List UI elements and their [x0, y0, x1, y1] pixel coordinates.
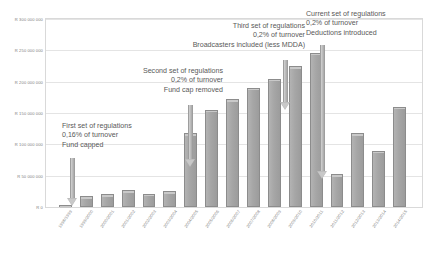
bar-column [372, 19, 385, 207]
x-axis-tick-label: 2003/2004 [162, 209, 178, 229]
y-axis-tick-label: R 0 [36, 205, 43, 210]
x-axis-tick-label: 2006/2007 [225, 209, 241, 229]
annotation-line-1: Current set of regulations [306, 10, 386, 19]
y-axis: R 300 000 000R 250 000 000R 200 000 000R… [0, 18, 45, 208]
bar [247, 88, 260, 207]
bar [351, 133, 364, 207]
bar-column [80, 19, 93, 207]
bar-chart: R 300 000 000R 250 000 000R 200 000 000R… [0, 0, 439, 267]
annotation-second-set: Second set of regulations 0,2% of turnov… [58, 67, 223, 95]
x-axis-tick-label: 2002/2003 [141, 209, 157, 229]
annotation-arrow-second-set [184, 105, 196, 167]
x-axis-tick-label: 2004/2005 [183, 209, 199, 229]
annotation-line-2: 0,16% of turnover [62, 131, 132, 140]
annotation-line-3: Deductions introduced [306, 29, 386, 38]
y-axis-tick-label: R 250 000 000 [15, 48, 43, 53]
x-axis-tick-label: 2007/2008 [246, 209, 262, 229]
y-axis-tick-label: R 300 000 000 [15, 17, 43, 22]
x-axis-tick-label: 2005/2006 [204, 209, 220, 229]
x-axis-tick-label: 2000/2001 [99, 209, 115, 229]
x-axis: 1998/19991999/20002000/20012001/20022002… [46, 209, 422, 267]
x-axis-tick-label: 1999/2000 [78, 209, 94, 229]
x-axis-tick-label: 2001/2002 [120, 209, 136, 229]
bar [122, 190, 135, 207]
x-axis-tick-label: 2009/2010 [287, 209, 303, 229]
y-axis-tick-label: R 200 000 000 [15, 79, 43, 84]
y-axis-tick-label: R 100 000 000 [15, 142, 43, 147]
x-axis-tick-label: 2013/2014 [371, 209, 387, 229]
bar-column [351, 19, 364, 207]
bar [101, 194, 114, 207]
y-axis-tick-label: R 150 000 000 [15, 111, 43, 116]
x-axis-tick-label: 2012/2013 [350, 209, 366, 229]
annotation-arrow-current-set [316, 45, 328, 179]
annotation-line-3: Fund capped [62, 141, 132, 150]
bar [205, 110, 218, 207]
bar [163, 191, 176, 207]
annotation-line-1: Third set of regulations [110, 22, 305, 31]
annotation-line-3: Fund cap removed [58, 86, 223, 95]
annotation-line-1: Second set of regulations [58, 67, 223, 76]
annotation-line-2: 0,2% of turnover [306, 19, 386, 28]
annotation-third-set: Third set of regulations 0,2% of turnove… [110, 22, 305, 50]
bar [372, 151, 385, 207]
bar-column [393, 19, 406, 207]
bar [331, 174, 344, 207]
annotation-current-set: Current set of regulations 0,2% of turno… [306, 10, 386, 38]
bar [80, 196, 93, 207]
x-axis-tick-label: 1998/1999 [58, 209, 74, 229]
bar-column [331, 19, 344, 207]
annotation-line-2: 0,2% of turnover [58, 76, 223, 85]
annotation-line-1: First set of regulations [62, 122, 132, 131]
y-axis-tick-label: R 50 000 000 [17, 173, 43, 178]
x-axis-tick-label: 2011/2012 [329, 209, 345, 229]
annotation-arrow-third-set [279, 60, 291, 110]
bar [143, 194, 156, 207]
annotation-first-set: First set of regulations 0,16% of turnov… [62, 122, 132, 150]
bar [226, 99, 239, 207]
annotation-line-3: Broadcasters included (less MDDA) [110, 41, 305, 50]
annotation-arrow-first-set [66, 158, 78, 206]
x-axis-tick-label: 2010/2011 [308, 209, 324, 229]
bar [393, 107, 406, 207]
annotation-line-2: 0,2% of turnover [110, 31, 305, 40]
x-axis-tick-label: 2008/2009 [266, 209, 282, 229]
x-axis-tick-label: 2014/2015 [392, 209, 408, 229]
